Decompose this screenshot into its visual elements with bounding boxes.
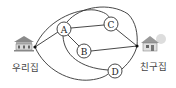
node-b-label: B [81,47,88,57]
route-graph: A B C D [0,0,176,88]
home-label: 우리집 [12,60,39,74]
node-c: C [104,17,118,31]
edge-home-c [35,10,109,47]
node-b: B [77,44,91,58]
edge-d-friend [122,46,137,69]
node-a: A [57,22,71,36]
edge-a-b [68,35,79,46]
friend-house-label: 친구집 [140,59,167,73]
edge-c-friend [116,29,137,46]
friend-junction-dot [135,44,138,47]
edge-b-friend [91,46,137,51]
edge-a-c [71,25,104,28]
house-icon [141,34,166,51]
node-c-label: C [108,20,115,30]
node-d: D [108,64,122,78]
house-icon [14,36,34,52]
edge-a-friend [67,7,137,46]
node-d-label: D [111,67,118,77]
node-a-label: A [60,25,68,35]
home-junction-dot [33,45,36,48]
edge-home-d [35,47,108,80]
